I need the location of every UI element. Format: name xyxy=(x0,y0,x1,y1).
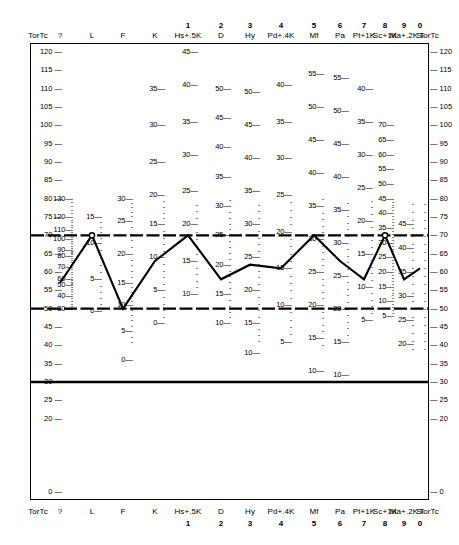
t-axis-tick-right-85: — 85 xyxy=(430,175,459,184)
t-axis-tick-right-50: — 50 xyxy=(430,304,459,313)
t-axis-tick-right-110: — 110 xyxy=(430,84,459,93)
raw-tick-mf-45: 45— xyxy=(296,135,324,144)
t-axis-tick-right-30: — 30 xyxy=(430,377,459,386)
si-minor-tick: - xyxy=(421,272,429,280)
raw-minor-tick: - xyxy=(128,322,136,330)
si-minor-tick: - xyxy=(409,208,417,216)
mmpi-profile-sheet: TorTcTorTc?LFKHs+.5K1D2Hy3Pd+.4K4Mf5Pa6P… xyxy=(0,0,459,545)
si-minor-tick: - xyxy=(409,216,417,224)
raw-tick-pd4k-40: 40— xyxy=(264,80,292,89)
t-axis-tick-right-80: — 80 xyxy=(430,194,459,203)
t-axis-tick-right-40: — 40 xyxy=(430,340,459,349)
raw-minor-tick: - xyxy=(160,280,168,288)
raw-minor-tick: - xyxy=(193,214,201,222)
raw-tick-d-40: 40— xyxy=(203,142,231,151)
raw-minor-tick: - xyxy=(226,225,234,233)
raw-minor-tick: - xyxy=(226,255,234,263)
si-minor-tick: - xyxy=(409,329,417,337)
si-minor-tick: - xyxy=(421,200,429,208)
raw-minor-tick: - xyxy=(255,214,263,222)
t-axis-tick-left-115: 115 — xyxy=(30,65,62,74)
si-minor-tick: - xyxy=(421,264,429,272)
raw-minor-tick: - xyxy=(368,210,376,218)
raw-tick-mf-50: 50— xyxy=(296,102,324,111)
t-axis-tick-left-100: 100 — xyxy=(30,120,62,129)
si-minor-tick: - xyxy=(409,272,417,280)
raw-minor-tick: - xyxy=(344,265,352,273)
t-axis-tick-left-120: 120 — xyxy=(30,47,62,56)
si-minor-tick: - xyxy=(409,232,417,240)
si-minor-tick: - xyxy=(421,345,429,353)
t-axis-tick-right-65: — 65 xyxy=(430,249,459,258)
si-minor-tick: - xyxy=(409,305,417,313)
raw-minor-tick: - xyxy=(128,212,136,220)
si-minor-tick: - xyxy=(409,289,417,297)
raw-minor-tick: - xyxy=(160,214,168,222)
raw-minor-tick: - xyxy=(193,283,201,291)
raw-minor-tick: - xyxy=(255,247,263,255)
si-minor-tick: - xyxy=(409,240,417,248)
raw-minor-tick: - xyxy=(255,313,263,321)
raw-tick-hs5k-25: 25— xyxy=(170,186,198,195)
raw-tick-hy-45: 45— xyxy=(232,120,260,129)
raw-tick-hy-10: 10— xyxy=(232,348,260,357)
si-minor-tick: - xyxy=(409,313,417,321)
si-minor-tick: - xyxy=(421,256,429,264)
raw-tick-d-50: 50— xyxy=(203,84,231,93)
t-axis-tick-left-105: 105 — xyxy=(30,102,62,111)
raw-tick-hy-50: 50— xyxy=(232,87,260,96)
raw-tick-k-25: 25— xyxy=(137,157,165,166)
scale-header-si: Si xyxy=(394,31,446,40)
t-axis-tick-left-45: 45 — xyxy=(30,322,62,331)
raw-tick-sc1k-60: 60— xyxy=(366,150,394,159)
raw-tick-sc1k-55: 55— xyxy=(366,164,394,173)
si-minor-tick: - xyxy=(421,208,429,216)
si-minor-tick: - xyxy=(421,337,429,345)
t-axis-tick-left-40: 40 — xyxy=(30,340,62,349)
raw-minor-tick: - xyxy=(128,243,136,251)
raw-minor-tick: - xyxy=(160,313,168,321)
raw-minor-tick: - xyxy=(344,331,352,339)
raw-minor-tick: - xyxy=(319,228,327,236)
raw-minor-tick: - xyxy=(226,284,234,292)
raw-tick-d-35: 35— xyxy=(203,172,231,181)
raw-tick-hs5k-35: 35— xyxy=(170,117,198,126)
raw-tick-hs5k-40: 40— xyxy=(170,80,198,89)
si-minor-tick: - xyxy=(409,224,417,232)
t-axis-tick-right-45: — 45 xyxy=(430,322,459,331)
t-axis-tick-right-55: — 55 xyxy=(430,285,459,294)
raw-tick-pd4k-5: 5— xyxy=(264,337,292,346)
t-axis-tick-right-20: — 20 xyxy=(430,414,459,423)
si-minor-tick: - xyxy=(409,256,417,264)
si-minor-tick: - xyxy=(421,248,429,256)
raw-minor-tick: - xyxy=(255,280,263,288)
raw-minor-tick: - xyxy=(128,273,136,281)
raw-minor-tick: - xyxy=(319,261,327,269)
si-minor-tick: - xyxy=(409,264,417,272)
raw-tick-hy-35: 35— xyxy=(232,186,260,195)
raw-minor-tick: - xyxy=(97,234,105,242)
si-minor-tick: - xyxy=(421,240,429,248)
raw-minor-tick: - xyxy=(128,338,136,346)
raw-minor-tick: - xyxy=(128,297,136,305)
t-axis-tick-left-30: 30 — xyxy=(30,377,62,386)
si-minor-tick: - xyxy=(409,280,417,288)
t-axis-tick-right-95: — 95 xyxy=(430,139,459,148)
raw-tick-mf-10: 10— xyxy=(296,366,324,375)
raw-minor-tick: - xyxy=(160,247,168,255)
raw-minor-tick: - xyxy=(97,268,105,276)
raw-minor-tick: - xyxy=(287,257,295,265)
t-axis-tick-right-90: — 90 xyxy=(430,157,459,166)
t-axis-tick-left-95: 95 — xyxy=(30,139,62,148)
si-minor-tick: - xyxy=(409,248,417,256)
si-minor-tick: - xyxy=(409,321,417,329)
si-minor-tick: - xyxy=(421,305,429,313)
raw-tick-d-45: 45— xyxy=(203,113,231,122)
raw-tick-sc1k-50: 50— xyxy=(366,179,394,188)
si-minor-tick: - xyxy=(409,297,417,305)
si-minor-tick: - xyxy=(409,337,417,345)
raw-minor-tick: - xyxy=(319,294,327,302)
si-minor-tick: - xyxy=(421,297,429,305)
raw-tick-hs5k-45: 45— xyxy=(170,47,198,56)
raw-tick-pa-10: 10— xyxy=(321,370,349,379)
